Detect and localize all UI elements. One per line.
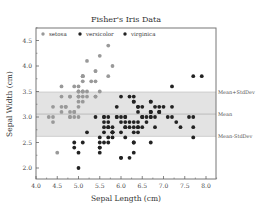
versicolor-point — [153, 125, 157, 129]
virginica-point — [132, 125, 136, 129]
virginica-point — [123, 136, 127, 140]
versicolor-point — [119, 95, 123, 99]
versicolor-point — [136, 120, 140, 124]
legend-label-setosa: setosa — [49, 31, 67, 37]
virginica-point — [132, 95, 136, 99]
legend-label-versicolor: versicolor — [85, 31, 114, 37]
versicolor-point — [98, 146, 102, 150]
versicolor-point — [98, 136, 102, 140]
versicolor-point — [111, 136, 115, 140]
versicolor-point — [106, 115, 110, 119]
versicolor-point — [102, 141, 106, 145]
legend-label-virginica: virginica — [130, 31, 156, 38]
virginica-point — [149, 115, 153, 119]
setosa-point — [81, 100, 85, 104]
setosa-point — [77, 90, 81, 94]
x-axis-label: Sepal Length (cm) — [91, 194, 161, 203]
virginica-point — [136, 130, 140, 134]
virginica-point — [191, 125, 195, 129]
versicolor-point — [98, 151, 102, 155]
virginica-point — [153, 105, 157, 109]
setosa-point — [98, 54, 102, 58]
stddev-band — [36, 92, 216, 136]
x-tick-label: 7.0 — [159, 182, 169, 189]
virginica-point — [166, 115, 170, 119]
setosa-point — [51, 120, 55, 124]
x-tick-label: 6.0 — [116, 182, 126, 189]
x-tick-label: 4.0 — [31, 182, 41, 189]
setosa-point — [85, 95, 89, 99]
virginica-point — [187, 115, 191, 119]
versicolor-point — [102, 130, 106, 134]
y-axis-label: Sepal Width (cm) — [5, 71, 14, 137]
virginica-point — [149, 110, 153, 114]
versicolor-point — [115, 105, 119, 109]
setosa-point — [47, 115, 51, 119]
virginica-point — [140, 115, 144, 119]
virginica-point — [191, 136, 195, 140]
y-tick-label: 2.0 — [22, 164, 32, 171]
virginica-point — [174, 120, 178, 124]
virginica-point — [128, 95, 132, 99]
virginica-point — [157, 110, 161, 114]
setosa-point — [77, 105, 81, 109]
virginica-point — [106, 141, 110, 145]
setosa-point — [94, 95, 98, 99]
setosa-point — [68, 110, 72, 114]
virginica-point — [149, 100, 153, 104]
setosa-point — [77, 115, 81, 119]
y-tick-label: 4.0 — [22, 62, 32, 69]
virginica-point — [179, 125, 183, 129]
setosa-point — [81, 74, 85, 78]
annotation-upper: Mean+StdDev — [218, 89, 255, 95]
setosa-point — [60, 85, 64, 89]
x-tick-label: 6.5 — [137, 182, 147, 189]
virginica-point — [128, 125, 132, 129]
legend-marker-versicolor — [78, 32, 81, 35]
versicolor-point — [94, 115, 98, 119]
chart-title: Fisher's Iris Data — [91, 15, 161, 24]
versicolor-point — [128, 120, 132, 124]
versicolor-point — [132, 151, 136, 155]
band-annotations: Mean+StdDevMeanMean-StdDev — [218, 89, 255, 139]
setosa-point — [77, 95, 81, 99]
setosa-point — [81, 90, 85, 94]
virginica-point — [132, 100, 136, 104]
setosa-point — [51, 115, 55, 119]
setosa-point — [77, 100, 81, 104]
versicolor-point — [102, 115, 106, 119]
setosa-point — [77, 85, 81, 89]
versicolor-point — [72, 146, 76, 150]
annotation-mean: Mean — [218, 111, 233, 117]
virginica-point — [119, 156, 123, 160]
virginica-point — [72, 141, 76, 145]
virginica-point — [136, 125, 140, 129]
setosa-point — [72, 85, 76, 89]
y-tick-label: 3.5 — [22, 88, 32, 95]
legend-marker-setosa — [41, 32, 44, 35]
versicolor-point — [106, 125, 110, 129]
virginica-point — [153, 115, 157, 119]
legend-marker-virginica — [123, 32, 126, 35]
versicolor-point — [128, 156, 132, 160]
setosa-point — [98, 90, 102, 94]
setosa-point — [60, 95, 64, 99]
versicolor-point — [81, 141, 85, 145]
x-tick-label: 8.0 — [201, 182, 211, 189]
virginica-point — [149, 141, 153, 145]
virginica-point — [200, 74, 204, 78]
setosa-point — [64, 105, 68, 109]
setosa-point — [81, 79, 85, 83]
setosa-point — [85, 90, 89, 94]
versicolor-point — [123, 120, 127, 124]
versicolor-point — [119, 120, 123, 124]
virginica-point — [170, 115, 174, 119]
legend: setosaversicolorvirginica — [41, 31, 156, 38]
x-tick-label: 4.5 — [52, 182, 62, 189]
virginica-point — [191, 74, 195, 78]
x-tick-label: 5.5 — [95, 182, 105, 189]
virginica-point — [140, 105, 144, 109]
setosa-point — [55, 151, 59, 155]
virginica-point — [136, 105, 140, 109]
setosa-point — [60, 105, 64, 109]
